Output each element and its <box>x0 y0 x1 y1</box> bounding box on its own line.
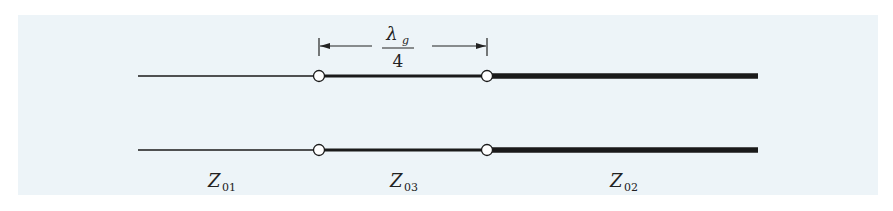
section-label-z01: Z 01 <box>207 170 236 194</box>
dimension-denominator: 4 <box>393 51 404 71</box>
svg-text:03: 03 <box>404 181 418 194</box>
top-conductor <box>138 71 758 82</box>
transmission-line-diagram: λ g 4 Z 01 Z 03 Z 02 <box>0 0 893 211</box>
junction-node <box>482 145 493 156</box>
dimension-numerator: λ <box>385 23 397 44</box>
svg-text:02: 02 <box>624 181 638 194</box>
junction-node <box>314 145 325 156</box>
svg-text:Z: Z <box>207 170 221 191</box>
section-label-z02: Z 02 <box>609 170 638 194</box>
junction-node <box>482 71 493 82</box>
bottom-conductor <box>138 145 758 156</box>
dimension-annotation: λ g 4 <box>319 23 487 71</box>
svg-text:Z: Z <box>609 170 623 191</box>
dimension-numerator-sub: g <box>402 34 409 47</box>
svg-text:Z: Z <box>389 170 403 191</box>
arrow-left-icon <box>320 43 330 49</box>
junction-node <box>314 71 325 82</box>
arrow-right-icon <box>476 43 486 49</box>
section-label-z03: Z 03 <box>389 170 418 194</box>
svg-text:01: 01 <box>222 181 236 194</box>
